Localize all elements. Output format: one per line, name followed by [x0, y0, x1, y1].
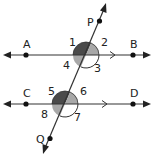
point-q	[47, 136, 52, 141]
angle-label-6: 6	[80, 85, 87, 98]
arrowhead-left-cd	[3, 101, 11, 108]
arrowhead-left-ab	[3, 52, 11, 59]
angle-label-5: 5	[48, 85, 55, 98]
angle-label-2: 2	[101, 36, 108, 49]
point-d	[130, 101, 135, 106]
label-a: A	[23, 38, 31, 51]
transversal-diagram: A B C D P Q 1 2 3 4 5 6 7 8	[0, 0, 153, 158]
angle-label-4: 4	[63, 59, 70, 72]
label-d: D	[130, 87, 138, 100]
label-p: P	[87, 16, 94, 29]
point-a	[23, 52, 28, 57]
label-c: C	[23, 87, 31, 100]
arrowhead-top-pq	[100, 3, 107, 13]
diagram-canvas: A B C D P Q 1 2 3 4 5 6 7 8	[0, 0, 153, 158]
point-p	[97, 18, 102, 23]
angle-label-8: 8	[41, 108, 48, 121]
angle-label-3: 3	[94, 62, 101, 75]
arrowhead-right-cd	[143, 101, 151, 108]
angle-label-1: 1	[69, 36, 76, 49]
label-b: B	[130, 38, 138, 51]
arrowhead-right-ab	[143, 52, 151, 59]
transversal-pq	[43, 3, 107, 154]
label-q: Q	[36, 133, 45, 146]
point-c	[23, 101, 28, 106]
point-b	[130, 52, 135, 57]
angle-label-7: 7	[74, 111, 81, 124]
